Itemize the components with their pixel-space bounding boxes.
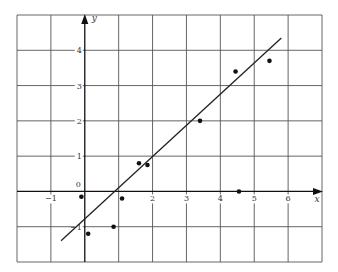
data-point: [79, 194, 84, 199]
y-tick-label: 4: [77, 46, 82, 55]
data-point: [120, 196, 125, 201]
x-tick-label: 3: [184, 194, 189, 203]
best-fit-line: [61, 38, 281, 241]
axes: [17, 14, 323, 262]
y-axis-label: y: [91, 13, 98, 23]
data-point: [233, 69, 238, 74]
data-point: [111, 224, 116, 229]
y-tick-label: 2: [77, 117, 82, 126]
x-tick-label: 4: [218, 194, 223, 203]
regression-line: [61, 38, 281, 241]
data-point: [237, 189, 242, 194]
x-tick-label: 5: [252, 194, 257, 203]
x-tick-label: 6: [286, 194, 291, 203]
x-tick-label: −1: [45, 194, 57, 203]
x-axis-label: x: [314, 194, 319, 204]
tick-labels: −1234564321−10xy: [45, 13, 320, 232]
data-point: [267, 59, 272, 64]
data-point: [145, 163, 150, 168]
data-point: [86, 231, 91, 236]
data-point: [198, 119, 203, 124]
y-axis-arrow-icon: [81, 14, 88, 24]
y-tick-label: 3: [77, 82, 82, 91]
origin-label: 0: [76, 180, 81, 189]
y-tick-label: 1: [77, 152, 82, 161]
grid-lines: [17, 15, 322, 262]
x-tick-label: 2: [150, 194, 155, 203]
scatter-chart: −1234564321−10xy: [0, 0, 338, 272]
data-point: [137, 161, 142, 166]
